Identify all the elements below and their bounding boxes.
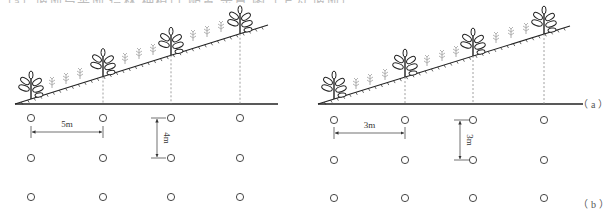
- seedling-icon: [382, 69, 388, 80]
- slope-hatch: [400, 79, 402, 82]
- panel-label-a: （a）: [578, 96, 611, 111]
- slope-hatch: [123, 70, 125, 73]
- slope-hatch: [224, 39, 226, 42]
- panel-left: 5m4m: [15, 6, 278, 201]
- slope-hatch: [463, 59, 465, 62]
- planting-point-circle: [540, 116, 547, 123]
- slope-hatch: [532, 38, 534, 41]
- tree-icon: [18, 71, 44, 99]
- slope-hatch: [507, 46, 509, 49]
- slope-hatch: [356, 92, 358, 95]
- slope-hatch: [243, 33, 245, 36]
- slope-hatch: [494, 49, 496, 52]
- horizontal-spacing-label: 5m: [61, 119, 73, 129]
- slope-hatch: [217, 41, 219, 44]
- seedling-icon: [204, 26, 210, 37]
- planting-point-circle: [330, 116, 337, 123]
- seedling-icon: [122, 53, 128, 64]
- planting-point-circle: [401, 116, 408, 123]
- slope-hatch: [425, 71, 427, 74]
- seedling-icon: [77, 68, 83, 79]
- slope-hatch: [66, 88, 68, 91]
- slope-hatch: [53, 92, 55, 95]
- slope-hatch: [116, 72, 118, 75]
- seedling-icon: [63, 73, 69, 84]
- slope-hatch: [97, 78, 99, 81]
- slope-hatch: [526, 40, 528, 43]
- slope-hatch: [47, 94, 49, 97]
- slope-hatch: [154, 61, 156, 64]
- planting-point-circle: [167, 154, 174, 161]
- planting-point-circle: [99, 114, 106, 121]
- slope-hatch: [350, 94, 352, 97]
- slope-hatch: [501, 47, 503, 50]
- slope-hatch: [394, 81, 396, 84]
- slope-hatch: [59, 90, 61, 93]
- seedling-icon: [136, 48, 142, 59]
- tree-icon: [460, 28, 486, 56]
- planting-point-circle: [27, 154, 34, 161]
- slope-hatch: [368, 88, 370, 91]
- slope-hatch: [85, 82, 87, 85]
- slope-hatch: [438, 67, 440, 70]
- slope-hatch: [476, 55, 478, 58]
- seedling-icon: [439, 50, 445, 61]
- slope-hatch: [186, 51, 188, 54]
- planting-point-circle: [99, 193, 106, 200]
- seedling-icon: [150, 44, 156, 55]
- slope-hatch: [450, 63, 452, 66]
- tree-icon: [321, 71, 347, 99]
- slope-hatch: [198, 47, 200, 50]
- tree-icon: [227, 6, 253, 34]
- slope-hatch: [262, 27, 264, 30]
- slope-hatch: [419, 73, 421, 76]
- slope-hatch: [375, 86, 377, 89]
- tree-icon: [392, 49, 418, 77]
- slope-hatch: [488, 51, 490, 54]
- slope-hatch: [205, 45, 207, 48]
- tree-icon: [531, 6, 557, 34]
- slope-hatch: [331, 100, 333, 103]
- slope-hatch: [148, 63, 150, 66]
- tree-icon: [90, 49, 116, 77]
- slope-hatch: [173, 55, 175, 58]
- planting-point-circle: [236, 154, 243, 161]
- slope-hatch: [431, 69, 433, 72]
- slope-hatch: [192, 49, 194, 52]
- slope-hatch: [406, 77, 408, 80]
- seedling-icon: [353, 78, 359, 89]
- slope-hatch: [513, 44, 515, 47]
- seedling-icon: [453, 46, 459, 57]
- planting-point-circle: [540, 156, 547, 163]
- tree-icon: [158, 27, 184, 55]
- vertical-spacing-label: 3m: [465, 134, 475, 146]
- seedling-icon: [523, 23, 529, 34]
- planting-point-circle: [330, 194, 337, 201]
- slope-hatch: [230, 37, 232, 40]
- planting-point-circle: [540, 194, 547, 201]
- planting-point-circle: [167, 114, 174, 121]
- planting-point-circle: [401, 194, 408, 201]
- slope-hatch: [564, 28, 566, 31]
- horizontal-spacing-label: 3m: [364, 120, 376, 130]
- slope-hatch: [167, 57, 169, 60]
- planting-point-circle: [330, 156, 337, 163]
- planting-point-circle: [27, 193, 34, 200]
- planting-point-circle: [167, 193, 174, 200]
- slope-hatch: [381, 85, 383, 88]
- planting-point-circle: [27, 114, 34, 121]
- slope-hatch: [142, 65, 144, 68]
- slope-hatch: [236, 35, 238, 38]
- planting-point-circle: [236, 114, 243, 121]
- slope-hatch: [34, 98, 36, 101]
- slope-hatch: [78, 84, 80, 87]
- planting-point-circle: [469, 116, 476, 123]
- seedling-icon: [424, 55, 430, 66]
- panel-label-b: （b）: [578, 196, 612, 211]
- slope-hatch: [255, 29, 257, 32]
- seedling-icon: [508, 27, 514, 38]
- slope-hatch: [539, 36, 541, 39]
- slope-hatch: [387, 83, 389, 86]
- slope-hatch: [72, 86, 74, 89]
- seedling-icon: [493, 32, 499, 43]
